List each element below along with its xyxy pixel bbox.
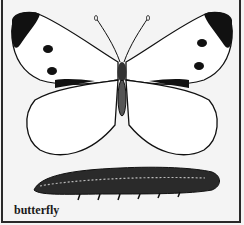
illustration-frame: butterfly: [0, 0, 244, 225]
butterfly-illustration: [0, 0, 244, 225]
caterpillar-icon: [34, 167, 220, 200]
illustration-caption: butterfly: [14, 203, 59, 218]
